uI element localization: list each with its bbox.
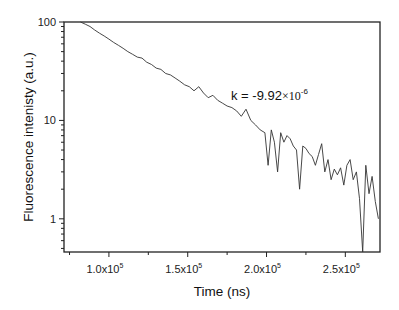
- y-axis: 110100: [38, 16, 64, 248]
- x-axis: 1.0x1051.5x1052.0x1052.5x105: [70, 252, 360, 275]
- x-axis-title: Time (ns): [194, 284, 251, 299]
- plot-border: [64, 22, 380, 252]
- decay-curve: [81, 22, 379, 252]
- y-tick-label: 10: [44, 114, 56, 126]
- decay-chart: 1.0x1051.5x1052.0x1052.5x105 110100 k = …: [0, 0, 399, 310]
- x-tick-label: 1.0x105: [86, 262, 123, 275]
- x-tick-label: 1.5x105: [165, 262, 202, 275]
- y-axis-title: Fluorescence intenisty (a.u.): [21, 52, 36, 222]
- plot-frame: [64, 22, 380, 252]
- x-tick-label: 2.5x105: [323, 262, 360, 275]
- y-tick-label: 1: [50, 213, 56, 225]
- rate-constant-annotation: k = -9.92×10-6: [231, 87, 308, 103]
- y-tick-label: 100: [38, 16, 56, 28]
- x-tick-label: 2.0x105: [244, 262, 281, 275]
